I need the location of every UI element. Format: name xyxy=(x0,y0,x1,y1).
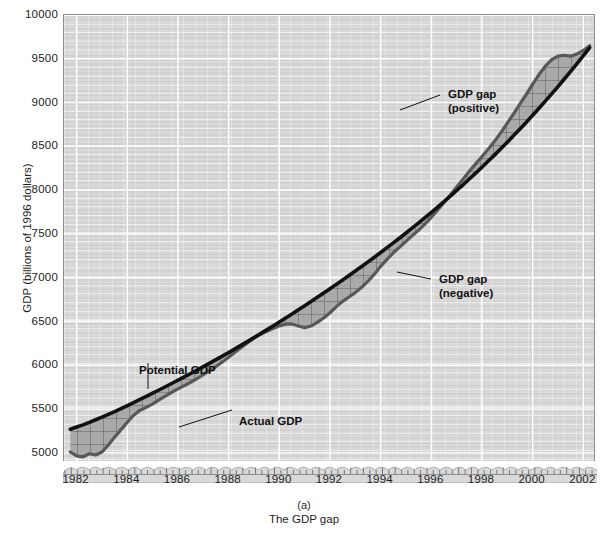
y-axis-title: GDP (billions of 1996 dollars) xyxy=(21,148,33,328)
plot-area: GDP gap (positive) GDP gap (negative) Po… xyxy=(63,14,595,465)
gdp-gap-figure: GDP gap (positive) GDP gap (negative) Po… xyxy=(0,0,608,537)
y-axis-tick-label: 5500 xyxy=(0,402,58,414)
leader-actual-gdp xyxy=(179,410,232,427)
y-axis-tick-label: 9500 xyxy=(0,52,58,64)
annotation-potential-gdp: Potential GDP xyxy=(139,364,216,378)
y-axis-tick-label: 9000 xyxy=(0,96,58,108)
chart-canvas xyxy=(64,15,595,465)
panel-identifier: (a) xyxy=(0,498,608,512)
annotation-gdp-gap-positive: GDP gap (positive) xyxy=(448,88,499,115)
x-axis-tick-label: 2002 xyxy=(552,473,608,485)
y-axis-tick-label: 6000 xyxy=(0,358,58,370)
caption-text: The GDP gap xyxy=(0,512,608,527)
annotation-actual-gdp: Actual GDP xyxy=(239,415,302,429)
y-axis-tick-label: 10000 xyxy=(0,8,58,20)
annotation-gdp-gap-negative: GDP gap (negative) xyxy=(439,273,493,300)
figure-caption: (a) The GDP gap xyxy=(0,498,608,527)
y-axis-tick-label: 5000 xyxy=(0,446,58,458)
